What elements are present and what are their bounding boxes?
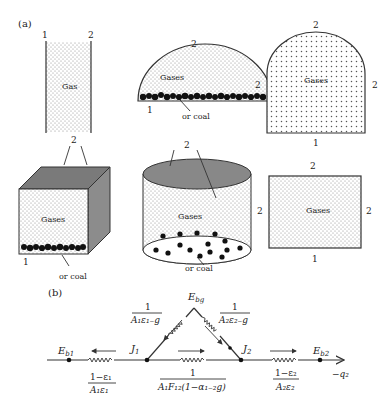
arch-surface-2-right-label: 2 — [372, 80, 378, 90]
panel-a-label: (a) — [18, 18, 32, 29]
arch-gas-label: Gases — [304, 76, 328, 85]
fraction-r2g-denominator: A₂ε₂₋g — [218, 315, 248, 325]
fraction-r2-numerator: 1−ε₂ — [275, 368, 297, 378]
rectangle-surface-2-top-label: 2 — [310, 161, 316, 171]
slab-gas-label: Gas — [62, 82, 77, 91]
half-cylinder-diagram: 2 1 Gases or coal — [138, 39, 272, 121]
half-cylinder-coal-pointer — [180, 100, 190, 111]
fraction-r2g-numerator: 1 — [232, 302, 238, 312]
half-cylinder-gas-label: Gases — [160, 73, 184, 82]
node-j2-leg — [228, 346, 232, 350]
label-heat-flow: −q₂ — [332, 369, 349, 379]
fraction-r1g-denominator: A₁ε₁₋g — [130, 315, 160, 325]
node-j2 — [239, 358, 244, 363]
slab-surface-1-label: 1 — [42, 30, 48, 40]
arch-diagram: 2 2 2 1 Gases — [255, 20, 378, 148]
arch-surface-2-top-label: 2 — [313, 20, 319, 30]
resistor-r12 — [180, 358, 204, 362]
label-eb1: Eb1 — [57, 345, 74, 358]
cylinder-coal-pool — [143, 236, 251, 264]
cylinder-diagram: 2 Gases or coal — [143, 140, 251, 273]
cube-surface-2-pointer-b — [81, 146, 87, 165]
node-j1 — [145, 358, 150, 363]
panel-b-label: (b) — [48, 287, 62, 298]
label-eb2: Eb2 — [312, 345, 330, 358]
cylinder-surface-2-label: 2 — [184, 140, 190, 150]
label-j2: J2 — [241, 343, 252, 356]
fraction-r1g-numerator: 1 — [145, 302, 151, 312]
resistor-r2 — [272, 358, 296, 362]
rectangle-surface-2-left-label: 2 — [257, 206, 263, 216]
node-eb1 — [67, 358, 72, 363]
half-cylinder-coal-label: or coal — [182, 112, 210, 121]
arch-surface-2-left-label: 2 — [255, 80, 261, 90]
fraction-r1g: 1 A₁ε₁₋g — [130, 302, 162, 325]
rectangle-gas-label: Gases — [306, 206, 330, 215]
slab-diagram: 1 2 Gas — [42, 30, 94, 133]
fraction-r2g: 1 A₂ε₂₋g — [218, 302, 250, 325]
cube-surface-2-pointer-a — [64, 146, 70, 165]
node-eb2 — [318, 358, 323, 363]
cylinder-coal-label: or coal — [185, 264, 213, 273]
current-arrow-r2g — [205, 326, 222, 344]
fraction-r12-denominator: A₁F₁₂(1−α₁₋₂g) — [157, 382, 226, 392]
slab-surface-2-label: 2 — [88, 30, 94, 40]
label-ebg: Ebg — [187, 291, 205, 304]
label-j1: J1 — [129, 343, 139, 356]
rectangle-surface-2-right-label: 2 — [366, 206, 372, 216]
cylinder-top-face — [143, 159, 251, 189]
rectangle-surface-1-label: 1 — [312, 254, 318, 264]
half-cylinder-shape — [138, 44, 272, 101]
figure-svg: (a) (b) 1 2 Gas 2 1 Gases or coal 2 2 2 — [0, 0, 391, 412]
fraction-r2-denominator: A₂ε₂ — [275, 382, 295, 392]
cube-surface-1-label: 1 — [23, 257, 29, 267]
arch-surface-1-label: 1 — [313, 138, 319, 148]
rectangle-diagram: 2 2 2 1 Gases — [257, 161, 372, 264]
current-arrow-r1g — [164, 320, 182, 340]
half-cylinder-surface-2-label: 2 — [191, 39, 197, 49]
cylinder-gas-label: Gases — [178, 212, 202, 221]
wire-r1g-ebg — [186, 308, 194, 317]
wire-ebg-r2g — [194, 308, 202, 317]
cube-coal-pointer — [62, 255, 69, 266]
half-cylinder-surface-1-label: 1 — [147, 105, 153, 115]
cube-surface-2-label: 2 — [71, 135, 77, 145]
fraction-r12: 1 A₁F₁₂(1−α₁₋₂g) — [157, 368, 226, 392]
cube-gas-label: Gases — [41, 215, 65, 224]
radiation-exchange-figure: (a) (b) 1 2 Gas 2 1 Gases or coal 2 2 2 — [0, 0, 391, 412]
resistor-r1 — [88, 358, 112, 362]
resistor-r2g — [202, 317, 217, 331]
radiation-network: Eb1 J1 J2 Eb2 Ebg −q₂ 1−ε₁ A₁ε₁ 1 A₁ε₁₋g… — [47, 291, 349, 395]
fraction-r12-numerator: 1 — [190, 368, 196, 378]
fraction-r2: 1−ε₂ A₂ε₂ — [273, 368, 299, 392]
fraction-r1-denominator: A₁ε₁ — [89, 385, 109, 395]
cube-coal-label: or coal — [59, 272, 87, 281]
cube-diagram: 2 1 Gases or coal — [19, 135, 110, 281]
fraction-r1-numerator: 1−ε₁ — [90, 372, 112, 382]
fraction-r1: 1−ε₁ A₁ε₁ — [88, 372, 116, 395]
